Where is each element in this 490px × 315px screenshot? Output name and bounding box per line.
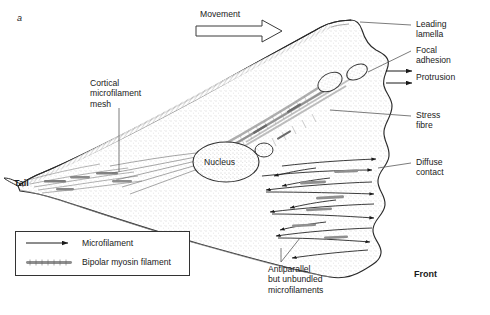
figure-panel: a Movement Cortical microfilament mesh L… [0, 0, 490, 315]
legend-item-microfilament: Microfilament [82, 238, 133, 248]
legend-symbols [0, 0, 490, 315]
legend-item-myosin: Bipolar myosin filament [82, 257, 171, 267]
